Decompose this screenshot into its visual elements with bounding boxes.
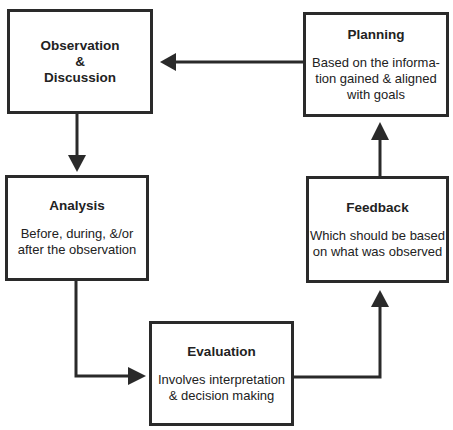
- node-description: Which should be based on what was observ…: [310, 228, 445, 260]
- arrowhead-up-icon: [371, 122, 389, 140]
- edge-evaluation-to-feedback: [293, 303, 380, 377]
- arrowhead-right-icon: [128, 367, 146, 385]
- node-observation-discussion: Observation & Discussion: [7, 9, 153, 114]
- arrowhead-left-icon: [160, 53, 176, 71]
- edge-analysis-to-evaluation: [76, 280, 132, 376]
- node-analysis: Analysis Before, during, &/or after the …: [5, 175, 149, 281]
- arrowhead-down-icon: [68, 155, 86, 172]
- node-description: Before, during, &/or after the observati…: [18, 226, 137, 258]
- node-feedback: Feedback Which should be based on what w…: [306, 176, 449, 283]
- node-title: Observation & Discussion: [41, 38, 120, 86]
- node-title: Analysis: [49, 198, 105, 214]
- node-description: Based on the informa- tion gained & alig…: [312, 55, 440, 103]
- node-title: Evaluation: [187, 344, 255, 360]
- arrowhead-up-icon: [371, 290, 389, 307]
- node-title: Planning: [348, 27, 405, 43]
- node-description: Involves interpretation & decision makin…: [158, 372, 285, 404]
- node-title: Feedback: [346, 200, 408, 216]
- node-evaluation: Evaluation Involves interpretation & dec…: [149, 321, 294, 426]
- node-planning: Planning Based on the informa- tion gain…: [303, 12, 449, 117]
